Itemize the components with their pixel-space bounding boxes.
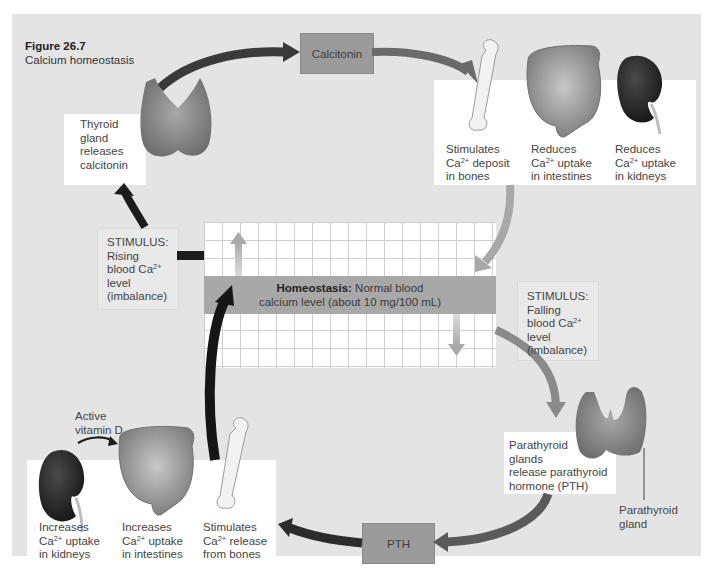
effect-kidneys-increase: Increases Ca2+ uptake in kidneys <box>39 521 100 562</box>
effect-intestines-reduce: Reduces Ca2+ uptake in intestines <box>531 143 592 184</box>
effect-kidneys-reduce: Reduces Ca2+ uptake in kidneys <box>615 143 676 184</box>
effect-intestines-increase: Increases Ca2+ uptake in intestines <box>122 521 183 562</box>
stimulus-rising-text: STIMULUS: Rising blood Ca2+ level (imbal… <box>107 236 168 304</box>
effect-bones-release: Stimulates Ca2+ release from bones <box>203 521 267 562</box>
arrow-grid-to-stimulus-rising <box>177 251 204 260</box>
arrow-vitamin-d <box>78 436 118 446</box>
intestines-image-bottom <box>119 426 194 515</box>
parathyroid-gland-label: Parathyroid gland <box>619 504 678 531</box>
arrow-pth-to-effects <box>278 518 362 543</box>
arrow-thyroid-to-calcitonin <box>160 42 300 88</box>
parathyroid-glands-text: Parathyroid glands release parathyroid h… <box>509 439 607 493</box>
arrow-parathyroid-to-pth <box>433 494 548 552</box>
arrow-calcitonin-to-effects <box>372 52 478 84</box>
thyroid-gland-image <box>140 78 211 157</box>
arrow-effects-to-homeostasis <box>475 185 510 272</box>
intestines-image-top <box>527 46 601 138</box>
rising-indicator-arrow <box>230 232 247 276</box>
bone-image-top <box>469 40 498 131</box>
arrow-stimulus-to-thyroid <box>114 183 145 227</box>
stimulus-falling-text: STIMULUS: Falling blood Ca2+ level (imba… <box>527 290 588 358</box>
kidney-image-top <box>617 56 662 134</box>
vitamin-d-label: Active vitamin D <box>75 410 123 437</box>
kidney-image-bottom <box>39 450 84 532</box>
effect-bones-deposit: Stimulates Ca2+ deposit in bones <box>446 143 510 184</box>
falling-indicator-arrow <box>448 314 465 356</box>
thyroid-gland-text: Thyroid gland releases calcitonin <box>80 118 128 172</box>
bone-image-bottom <box>217 418 248 509</box>
